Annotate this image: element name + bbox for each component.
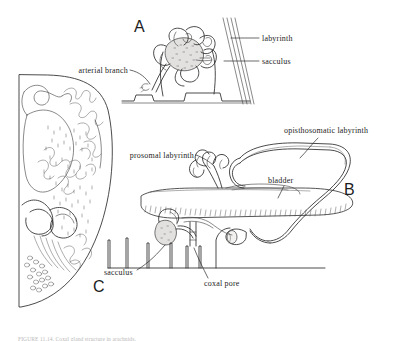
panel-letter-b: B xyxy=(344,181,355,198)
figure-caption: FIGURE 11.14. Coxal gland structure in a… xyxy=(18,336,398,341)
sacculus-shape-b xyxy=(155,220,177,245)
panel-b-drawing xyxy=(108,143,353,268)
label-sacculus-a: sacculus xyxy=(262,57,291,66)
label-opisthosomatic-labyrinth: opisthosomatic labyrinth xyxy=(284,126,368,135)
label-sacculus-b: sacculus xyxy=(104,268,133,277)
anatomical-figure: C xyxy=(0,0,405,341)
panel-c-drawing xyxy=(19,75,112,307)
label-arterial-branch: arterial branch xyxy=(79,66,128,75)
figure-root: C xyxy=(0,0,405,341)
granular-cluster xyxy=(24,256,53,292)
sacculus-shape-a xyxy=(165,38,203,71)
label-labyrinth-a: labyrinth xyxy=(262,34,293,43)
label-bladder: bladder xyxy=(268,176,294,185)
panel-letter-c: C xyxy=(93,278,105,295)
label-coxal-pore: coxal pore xyxy=(204,279,240,288)
label-prosomal-labyrinth: prosomal labyrinth xyxy=(130,151,194,160)
stipple-field xyxy=(44,126,92,237)
panel-letter-a: A xyxy=(134,18,145,35)
